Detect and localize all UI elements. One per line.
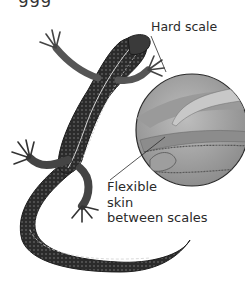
- hard-scale-label: Hard scale: [151, 19, 217, 35]
- magnified-scales-view: [136, 74, 245, 186]
- flexible-skin-label-line-2: skin: [107, 195, 208, 211]
- flexible-skin-label-line-1: Flexible: [107, 179, 208, 195]
- illustration: [0, 0, 245, 287]
- lizard-scale-diagram: ggg: [0, 0, 245, 287]
- flexible-skin-label: Flexible skin between scales: [107, 179, 208, 226]
- flexible-skin-label-line-3: between scales: [107, 210, 208, 226]
